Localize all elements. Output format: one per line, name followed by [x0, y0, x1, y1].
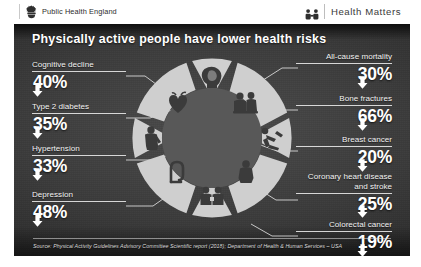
stat-value-row: 66% [296, 107, 392, 126]
stat-underline [296, 105, 392, 106]
stat-underline [32, 201, 126, 202]
stat-value-row: 25% [296, 195, 392, 214]
stat-underline [296, 193, 392, 194]
phe-brand: Public Health England [19, 3, 117, 20]
stat-label: Coronary heart disease and stroke [296, 172, 392, 191]
stat-value-row: 20% [296, 148, 392, 167]
stat-value-row: 35% [32, 115, 126, 134]
stat-cognitive-decline: Cognitive decline 40% [32, 60, 126, 92]
divider [19, 4, 20, 19]
stat-label: Bone fractures [296, 94, 392, 104]
stat-depression: Depression 48% [32, 190, 126, 222]
stat-breast-cancer: Breast cancer 20% [296, 135, 392, 167]
stat-underline [296, 146, 392, 147]
stat-underline [296, 63, 392, 64]
stat-underline [32, 71, 126, 72]
source-divider [33, 238, 391, 239]
stat-coronary-heart-disease-and-stroke: Coronary heart disease and stroke 25% [296, 172, 392, 214]
stat-underline [32, 113, 126, 114]
phe-label: Public Health England [42, 7, 117, 16]
stat-label: Colorectal cancer [296, 220, 392, 230]
stat-bone-fractures: Bone fractures 66% [296, 94, 392, 126]
infographic-panel: Physically active people have lower heal… [14, 24, 410, 256]
stat-value-row: 40% [32, 73, 126, 92]
health-matters-icon [305, 6, 319, 17]
health-matters-brand: Health Matters [305, 3, 401, 20]
stat-hypertension: Hypertension 33% [32, 144, 126, 176]
stat-value-row: 33% [32, 157, 126, 176]
stat-underline [296, 231, 392, 232]
page-title: Physically active people have lower heal… [32, 32, 326, 46]
infographic-root: Public Health England Health Matters [0, 0, 421, 267]
stat-value-row: 48% [32, 203, 126, 222]
stat-underline [32, 155, 126, 156]
stat-label: Cognitive decline [32, 60, 126, 70]
stat-label: Depression [32, 190, 126, 200]
stat-all-cause-mortality: All-cause mortality 30% [296, 52, 392, 84]
activity-wheel [128, 54, 296, 222]
health-matters-label: Health Matters [331, 6, 401, 17]
royal-crest-icon [25, 5, 38, 19]
stat-type-2-diabetes: Type 2 diabetes 35% [32, 102, 126, 134]
stat-label: Hypertension [32, 144, 126, 154]
stat-label: Type 2 diabetes [32, 102, 126, 112]
source-citation: Source: Physical Activity Guidelines Adv… [33, 243, 342, 249]
stat-label: All-cause mortality [296, 52, 392, 62]
stat-label: Breast cancer [296, 135, 392, 145]
stat-value-row: 30% [296, 65, 392, 84]
page-header: Public Health England Health Matters [0, 0, 421, 23]
divider [324, 4, 325, 19]
